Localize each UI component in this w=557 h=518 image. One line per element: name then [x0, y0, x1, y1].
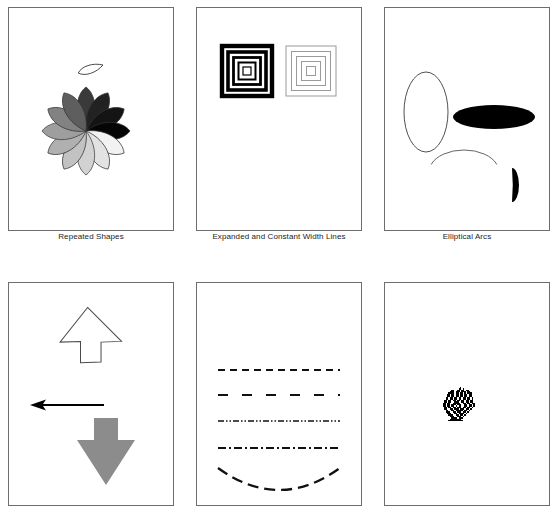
- bitmap-pixel-run: [461, 401, 464, 402]
- bitmap-pixel-run: [448, 420, 463, 421]
- bitmap-pixel-run: [463, 407, 466, 408]
- nested-square: [297, 57, 326, 86]
- outlined-vertical-ellipse: [404, 72, 448, 152]
- bitmap-pixel-run: [469, 405, 472, 406]
- bitmap-pixel-run: [457, 390, 460, 391]
- panel-bitmap: [384, 282, 550, 506]
- nested-square: [307, 67, 316, 76]
- nested-square: [239, 63, 256, 80]
- bitmap-pixel-run: [460, 408, 464, 409]
- bitmap-pixel-run: [466, 401, 469, 402]
- bitmap-pixel-run: [446, 397, 449, 398]
- bitmap-pixel-run: [451, 390, 454, 391]
- bitmap-pixel-run: [463, 403, 466, 404]
- bitmap-pixel-run: [466, 400, 469, 401]
- bitmap-pixel-run: [456, 410, 463, 411]
- dashed-arc: [218, 468, 340, 490]
- bitmap-pixel-run: [454, 401, 458, 402]
- bitmap-pixel-run: [444, 408, 447, 409]
- panel-dash-patterns: [196, 282, 362, 506]
- bitmap-pixel-run: [456, 394, 459, 395]
- bitmap-pixel-run: [467, 392, 471, 393]
- bitmap-pixel-run: [443, 405, 446, 406]
- bitmap-pixel-run: [463, 411, 466, 412]
- bitmap-pixel-run: [454, 408, 458, 409]
- bitmap-pixel-run: [467, 391, 470, 392]
- petal-rosette: [42, 87, 130, 175]
- nested-square: [243, 67, 251, 75]
- bitmap-pixel-run: [466, 390, 469, 391]
- bitmap-pixel-run: [459, 417, 463, 418]
- bitmap-pixel-run: [454, 413, 457, 414]
- sample-teardrop-outline: [77, 61, 104, 77]
- bitmap-canvas: [384, 282, 550, 506]
- bitmap-pixel-run: [467, 407, 470, 408]
- bitmap-pixel-run: [448, 392, 454, 393]
- bitmap-pixel-run: [446, 411, 450, 412]
- bitmap-pixel-run: [460, 395, 463, 396]
- bitmap-pixel-run: [459, 388, 462, 389]
- bitmap-pixel-run: [460, 392, 463, 393]
- bitmap-pixel-run: [464, 395, 467, 396]
- bitmap-pixel-run: [473, 404, 474, 405]
- bitmap-pixel-run: [456, 392, 459, 393]
- bitmap-pixel-run: [459, 405, 462, 406]
- caption-elliptical-arcs: Elliptical Arcs: [384, 232, 550, 241]
- bitmap-pixel-run: [444, 407, 447, 408]
- bitmap-pixel-run: [460, 394, 463, 395]
- bitmap-pixel-run: [447, 403, 450, 404]
- bitmap-pixel-run: [463, 388, 464, 389]
- bitmap-pixel-run: [448, 400, 451, 401]
- bitmap-pixel-run: [467, 398, 470, 399]
- bitmap-pixel-run: [460, 387, 461, 388]
- bitmap-pixel-run: [447, 404, 450, 405]
- dash-patterns-canvas: [196, 282, 362, 506]
- bitmap-pixel-run: [460, 414, 463, 415]
- bitmap-pixel-run: [459, 397, 462, 398]
- bitmap-pixel-run: [447, 413, 451, 414]
- expanded-width-squares: [222, 46, 272, 96]
- bitmap-pixel-run: [464, 414, 465, 415]
- bitmap-pixel-run: [473, 405, 474, 406]
- repeated-shapes-canvas: [8, 7, 174, 231]
- nested-square: [286, 46, 336, 96]
- bitmap-pixel-run: [457, 407, 461, 408]
- bitmap-pixel-run: [444, 401, 447, 402]
- bitmap-pixel-run: [450, 419, 462, 420]
- bitmap-pixel-run: [451, 404, 455, 405]
- panel-elliptical-arcs: [384, 7, 550, 231]
- bitmap-pixel-run: [469, 404, 472, 405]
- caption-repeated-shapes: Repeated Shapes: [8, 232, 174, 241]
- bitmap-pixel-run: [469, 395, 472, 396]
- bitmap-pixel-run: [464, 410, 467, 411]
- elliptical-arcs-canvas: [384, 7, 550, 231]
- bitmap-pixel-run: [457, 411, 461, 412]
- panel-width-lines: [196, 7, 362, 231]
- bitmap-pixel-run: [456, 405, 457, 406]
- bitmap-pixel-run: [463, 416, 464, 417]
- bitmap-pixel-run: [461, 391, 465, 392]
- caption-width-lines: Expanded and Constant Width Lines: [196, 232, 362, 241]
- bitmap-pixel-run: [467, 403, 470, 404]
- bitmap-pixel-run: [461, 390, 464, 391]
- panel-repeated-shapes: [8, 7, 174, 231]
- bitmap-pixel-run: [466, 408, 469, 409]
- bitmap-pixel-run: [450, 398, 453, 399]
- filled-horizontal-ellipse: [453, 105, 535, 129]
- bitmap-pixel-run: [446, 398, 449, 399]
- bitmap-pixel-run: [463, 397, 466, 398]
- bitmap-pixel-run: [472, 403, 475, 404]
- bitmap-pixel-run: [472, 397, 473, 398]
- bitmap-pixel-run: [450, 416, 454, 417]
- bitmap-pixel-run: [451, 410, 454, 411]
- bitmap-pixel-run: [450, 408, 453, 409]
- bitmap-pixel-run: [469, 410, 470, 411]
- bitmap-pixel-run: [457, 416, 461, 417]
- bitmap-pixel-run: [451, 405, 454, 406]
- bitmap-pixel-run: [454, 397, 457, 398]
- diagonal-arrow-outline: [56, 307, 121, 372]
- bitmap-pixel-run: [456, 395, 459, 396]
- down-arrow-gray: [77, 418, 135, 485]
- bitmap-pixel-run: [464, 392, 465, 393]
- bitmap-pixel-run: [447, 394, 450, 395]
